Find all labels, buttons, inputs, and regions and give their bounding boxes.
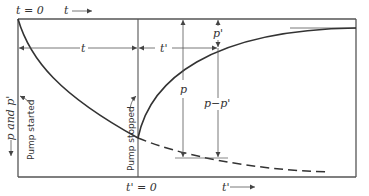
drawdown-curve [18,19,138,138]
t-span-label: t [81,42,86,55]
diagram: t t' p p' p−p' t = 0 t t' = 0 t' p and p… [0,0,369,196]
p-minus-p-prime-label: p−p' [204,97,230,110]
p-prime-label: p' [213,27,223,40]
t-arrow-label: t [64,4,69,17]
t-prime-zero-label: t' = 0 [126,181,157,194]
t-prime-span-label: t' [160,42,167,55]
t-zero-label: t = 0 [16,4,44,17]
frame [18,19,356,177]
pump-started-label: Pump started [26,99,36,160]
extrapolated-drawdown-curve [138,138,330,172]
recovery-curve [138,28,356,138]
pump-stopped-label: Pump stopped [126,106,136,171]
t-prime-arrow-label: t' [222,181,229,194]
y-axis-label: p and p' [4,96,17,141]
p-label: p [180,83,187,96]
